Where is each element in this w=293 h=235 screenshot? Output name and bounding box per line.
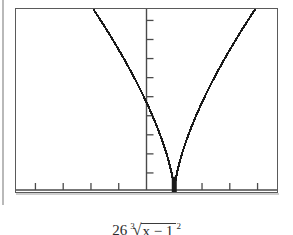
plot-area <box>16 9 277 192</box>
caption-root-index: 3 <box>130 221 135 231</box>
figure-caption: 263√x − 12 <box>0 222 293 235</box>
curve-left-branch <box>94 10 174 192</box>
calculator-screen <box>15 8 278 193</box>
caption-radicand-text: x − 1 <box>142 223 173 235</box>
caption-radical: 3√x − 1 <box>130 222 176 235</box>
caption-radicand: x − 1 <box>141 223 176 235</box>
caption-exponent: 2 <box>176 221 181 231</box>
curve-right-branch <box>174 9 255 192</box>
page-scan-edge <box>2 0 4 205</box>
caption-coefficient: 26 <box>112 222 127 235</box>
